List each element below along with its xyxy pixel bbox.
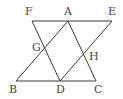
segment-de — [60, 21, 112, 81]
label-c: C — [94, 83, 102, 96]
label-f: F — [25, 5, 33, 18]
label-a: A — [63, 5, 73, 18]
label-h: H — [89, 50, 99, 63]
geometry-diagram: F A E G H B D C — [0, 0, 123, 99]
label-b: B — [9, 83, 17, 96]
label-e: E — [108, 5, 116, 18]
labels: F A E G H B D C — [9, 5, 116, 96]
segment-ba — [16, 21, 68, 81]
label-g: G — [32, 41, 41, 54]
label-d: D — [56, 83, 65, 96]
